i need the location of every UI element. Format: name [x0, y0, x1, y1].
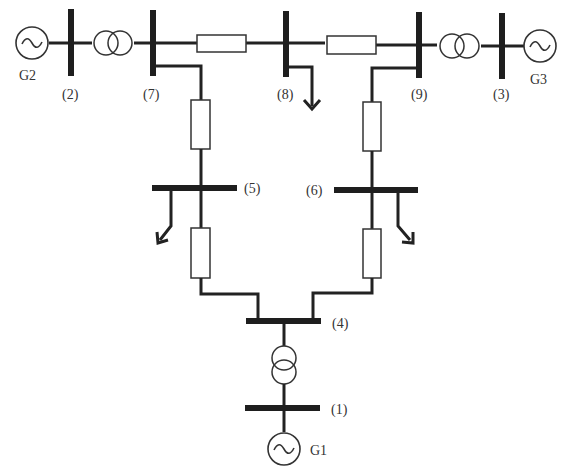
bus-label-3: (3)	[493, 87, 510, 103]
transformer-winding-icon	[272, 360, 296, 384]
line-impedance-7-8[interactable]	[197, 35, 246, 52]
bus-label-9: (9)	[411, 87, 428, 103]
generator-g1: G1	[268, 411, 327, 465]
bus-3: (3)	[493, 13, 510, 103]
transformer-4-1[interactable]	[272, 324, 296, 405]
power-system-diagram: G2 (2) (7) (8) (9) (3)	[0, 0, 564, 476]
line-7-5	[156, 66, 210, 188]
load-bus-6	[398, 192, 413, 243]
line-impedance-5-4[interactable]	[191, 228, 210, 278]
bus-9: (9)	[411, 12, 428, 103]
generator-g2: G2	[16, 27, 48, 83]
bus-label-2: (2)	[62, 87, 79, 103]
line-impedance-7-5[interactable]	[191, 100, 210, 149]
transformer-winding-icon	[272, 346, 296, 370]
bus-label-4: (4)	[332, 316, 349, 332]
transformer-9-3[interactable]	[440, 34, 479, 58]
generator-label-g3: G3	[530, 72, 547, 87]
bus-label-8: (8)	[277, 87, 294, 103]
line-6-4	[313, 193, 381, 320]
bus-label-6: (6)	[306, 183, 323, 199]
transformer-2-7[interactable]	[94, 31, 132, 55]
generator-label-g1: G1	[310, 443, 327, 458]
load-bus-5	[157, 190, 171, 243]
bus-2: (2)	[62, 9, 79, 103]
generator-g3: G3	[524, 30, 556, 87]
line-impedance-9-6[interactable]	[363, 102, 381, 151]
line-9-6	[363, 68, 416, 190]
bus-8: (8)	[277, 11, 294, 103]
bus-5: (5)	[152, 181, 261, 197]
bus-7: (7)	[143, 10, 160, 103]
bus-1: (1)	[245, 402, 348, 418]
line-5-4	[191, 191, 258, 320]
bus-label-5: (5)	[244, 181, 261, 197]
line-impedance-8-9[interactable]	[327, 36, 376, 54]
generator-label-g2: G2	[19, 68, 36, 83]
load-bus-8	[289, 67, 320, 109]
transformer-winding-icon	[455, 34, 479, 58]
bus-6: (6)	[306, 183, 418, 199]
bus-4: (4)	[246, 316, 349, 332]
line-impedance-6-4[interactable]	[363, 229, 381, 278]
bus-label-1: (1)	[331, 402, 348, 418]
transformer-winding-icon	[440, 34, 464, 58]
bus-label-7: (7)	[143, 87, 160, 103]
transformer-winding-icon	[94, 31, 118, 55]
transformer-winding-icon	[108, 31, 132, 55]
